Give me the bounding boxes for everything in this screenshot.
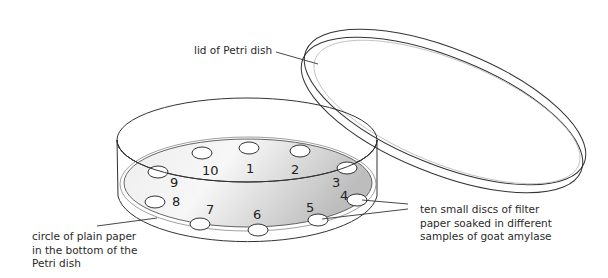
- disc-1: [239, 142, 259, 154]
- disc-7: [190, 218, 210, 230]
- label-line: paper soaked in different: [420, 217, 552, 231]
- label-line: ten small discs of filter: [420, 203, 552, 217]
- plain-paper-label: circle of plain paper in the bottom of t…: [32, 230, 137, 271]
- disc-5: [308, 214, 328, 226]
- disc-number: 2: [291, 162, 299, 177]
- label-line: circle of plain paper: [32, 230, 137, 244]
- disc-number: 9: [170, 175, 178, 190]
- label-line: samples of goat amylase: [420, 230, 552, 244]
- disc-number: 7: [206, 202, 214, 217]
- lid-label: lid of Petri dish: [194, 44, 272, 58]
- disc-number: 8: [172, 194, 180, 209]
- disc-6: [248, 224, 268, 236]
- disc-number: 5: [306, 200, 314, 215]
- disc-number: 1: [246, 161, 254, 176]
- disc-2: [290, 145, 310, 157]
- disc-10: [192, 147, 212, 159]
- label-line: Petri dish: [32, 257, 137, 271]
- disc-number: 10: [202, 163, 219, 178]
- disc-8: [145, 196, 165, 208]
- label-line: in the bottom of the: [32, 244, 137, 258]
- filter-discs-label: ten small discs of filter paper soaked i…: [420, 203, 552, 244]
- disc-number: 6: [253, 207, 261, 222]
- disc-number: 4: [340, 188, 348, 203]
